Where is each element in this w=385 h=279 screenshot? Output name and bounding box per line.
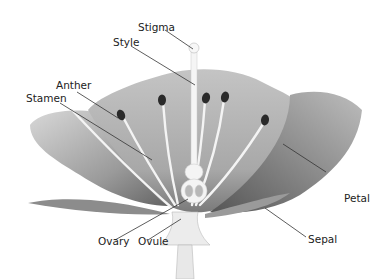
flower-diagram: Stigma Style Anther Stamen Petal Sepal O…	[0, 0, 385, 279]
label-stigma: Stigma	[138, 22, 175, 33]
stem	[176, 245, 194, 279]
label-style: Style	[113, 37, 139, 48]
label-ovary: Ovary	[98, 236, 129, 247]
label-anther: Anther	[56, 80, 91, 91]
label-ovule: Ovule	[138, 236, 169, 247]
label-petal: Petal	[344, 193, 370, 204]
label-stamen: Stamen	[26, 93, 67, 104]
stigma	[189, 43, 199, 53]
label-sepal: Sepal	[308, 234, 337, 245]
